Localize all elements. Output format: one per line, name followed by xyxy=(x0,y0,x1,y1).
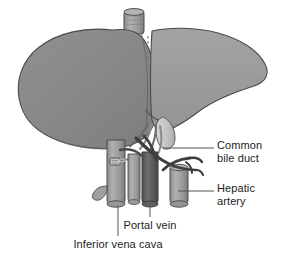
hepatic-artery-trunk-shape xyxy=(170,164,188,207)
label-common-bile-duct: Common bile duct xyxy=(217,139,262,165)
liver-right-lobe-shape xyxy=(18,29,156,148)
hepatic-vein-trunk-shape xyxy=(128,154,140,204)
liver-anatomy-figure: Common bile duct Hepatic artery Portal v… xyxy=(0,0,284,256)
liver-diagram-artwork xyxy=(0,0,284,256)
label-inferior-vena-cava: Inferior vena cava xyxy=(73,238,162,251)
label-portal-vein: Portal vein xyxy=(123,219,176,232)
label-hepatic-artery: Hepatic artery xyxy=(217,182,255,208)
liver-left-lobe-shape xyxy=(151,28,268,130)
